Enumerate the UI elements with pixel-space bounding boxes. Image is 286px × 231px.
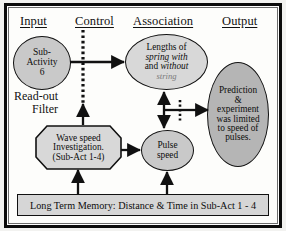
readout-filter-label: Read-out Filter [14,90,58,115]
lengths-line-3-plain: and [145,61,161,71]
column-header-input: Input [20,14,47,29]
lengths-line-4: string [156,72,176,81]
column-header-control: Control [75,14,114,29]
node-wave-speed-label: Wave speed Investigation. (Sub-Act 1-4) [36,128,121,168]
node-lengths-of-spring-label: Lengths of spring with and without strin… [125,36,208,88]
node-prediction-output-label: Prediction & experiment was limited to s… [207,62,269,167]
node-sub-activity-6-label: Sub- Activity 6 [13,38,71,88]
long-term-memory-label: Long Term Memory: Distance & Time in Sub… [30,200,256,211]
column-header-association: Association [133,14,193,29]
sub-activity-line-3: 6 [40,68,45,78]
prediction-line-6: pulses. [225,133,251,142]
diagram-canvas: Input Control Association Output Sub- Ac… [0,0,286,231]
node-long-term-memory[interactable]: Long Term Memory: Distance & Time in Sub… [17,194,269,216]
lengths-line-3-italic: without [160,61,188,71]
readout-filter-line-2: Filter [14,103,58,116]
node-pulse-speed-label: Pulse speed [141,130,194,171]
wave-speed-line-3: (Sub-Act 1-4) [53,153,105,162]
readout-filter-line-1: Read-out [14,90,58,103]
column-header-output: Output [222,14,257,29]
pulse-speed-line-2: speed [157,151,178,160]
